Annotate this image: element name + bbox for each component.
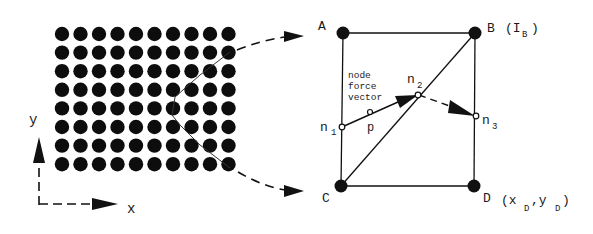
lattice-node xyxy=(129,101,143,115)
node-lattice xyxy=(55,27,236,172)
lattice-node xyxy=(110,45,124,59)
lattice-node xyxy=(110,64,124,78)
lattice-node xyxy=(147,27,161,41)
lattice-node xyxy=(147,138,161,152)
label-A: A xyxy=(318,19,326,34)
label-p: p xyxy=(367,121,374,135)
traced-path xyxy=(172,52,230,168)
lattice-node xyxy=(203,101,217,115)
lattice-node xyxy=(129,157,143,171)
lattice-node xyxy=(166,138,180,152)
caption-line-2: force xyxy=(348,81,377,92)
lattice-node xyxy=(147,45,161,59)
lattice-node xyxy=(110,138,124,152)
lattice-node xyxy=(129,64,143,78)
lattice-node xyxy=(73,27,87,41)
label-D-comma: ,y xyxy=(531,193,547,208)
corner-node-B xyxy=(469,27,482,40)
lattice-node xyxy=(203,120,217,134)
lattice-node xyxy=(184,101,198,115)
arrow-to-A-icon xyxy=(284,31,304,42)
label-n2-sub: 2 xyxy=(417,81,422,91)
lattice-node xyxy=(221,120,235,134)
lattice-node xyxy=(166,45,180,59)
lattice-node xyxy=(110,120,124,134)
lattice-node xyxy=(129,83,143,97)
lattice-node xyxy=(221,138,235,152)
lattice-node xyxy=(92,138,106,152)
caption-line-1: node xyxy=(348,70,371,81)
lattice-node xyxy=(203,27,217,41)
lattice-node xyxy=(203,45,217,59)
dashed-arrow-icon xyxy=(448,100,475,116)
x-axis-label: x xyxy=(127,201,135,217)
lattice-node xyxy=(203,138,217,152)
lattice-node xyxy=(73,83,87,97)
lattice-node xyxy=(166,157,180,171)
lattice-node xyxy=(73,138,87,152)
lattice-node xyxy=(147,157,161,171)
lattice-node xyxy=(55,27,69,41)
label-n3: n xyxy=(482,113,490,128)
label-D-annotation-open: (x xyxy=(501,193,517,208)
lattice-node xyxy=(166,27,180,41)
label-B-annotation-close: ) xyxy=(531,21,539,36)
corner-node-C xyxy=(335,180,348,193)
lattice-node xyxy=(55,157,69,171)
lattice-node xyxy=(184,45,198,59)
lattice-node xyxy=(92,27,106,41)
lattice-node xyxy=(92,157,106,171)
label-n3-sub: 3 xyxy=(492,122,497,132)
caption-line-3: vector xyxy=(348,92,382,103)
point-p xyxy=(368,110,373,115)
lattice-node xyxy=(184,64,198,78)
lattice-node xyxy=(110,83,124,97)
lattice-node xyxy=(110,157,124,171)
element-box xyxy=(335,27,482,193)
lattice-node xyxy=(203,157,217,171)
lattice-node xyxy=(55,101,69,115)
lattice-node xyxy=(221,101,235,115)
label-n1-sub: 1 xyxy=(331,128,336,138)
lattice-node xyxy=(221,83,235,97)
lattice-node xyxy=(147,101,161,115)
lattice-node xyxy=(221,27,235,41)
lattice-node xyxy=(203,83,217,97)
lattice-node xyxy=(73,45,87,59)
label-n1: n xyxy=(320,120,328,135)
lattice-node xyxy=(184,83,198,97)
lattice-node xyxy=(184,27,198,41)
x-axis-arrow-icon xyxy=(92,198,118,210)
lattice-node xyxy=(73,64,87,78)
node-n1 xyxy=(339,124,345,130)
force-vector-diagram: y x A B (I B ) xyxy=(0,0,593,234)
label-D-x-sub: D xyxy=(524,204,529,214)
label-n2: n xyxy=(407,72,415,87)
y-axis-arrow-icon xyxy=(33,137,45,163)
lattice-node xyxy=(55,138,69,152)
lattice-node xyxy=(55,120,69,134)
lattice-node xyxy=(221,157,235,171)
lattice-node xyxy=(129,138,143,152)
lattice-node xyxy=(73,157,87,171)
lattice-node xyxy=(110,101,124,115)
lattice-node xyxy=(92,45,106,59)
label-C: C xyxy=(322,191,330,206)
lattice-node xyxy=(147,83,161,97)
labels: A B (I B ) C D (x D ,y D ) node force ve… xyxy=(318,19,570,214)
corner-node-A xyxy=(337,27,350,40)
lattice-node xyxy=(73,120,87,134)
label-D-y-sub: D xyxy=(555,204,560,214)
lattice-node xyxy=(184,138,198,152)
label-B: B xyxy=(487,21,495,36)
node-n3 xyxy=(473,113,479,119)
lattice-node xyxy=(110,27,124,41)
lattice-node xyxy=(55,64,69,78)
lattice-node xyxy=(129,120,143,134)
lattice-node xyxy=(92,64,106,78)
mapping-arrow-to-C xyxy=(238,172,285,190)
label-B-annotation: (I xyxy=(505,21,521,36)
lattice-node xyxy=(147,120,161,134)
lattice-node xyxy=(55,45,69,59)
arrow-to-C-icon xyxy=(284,185,304,197)
